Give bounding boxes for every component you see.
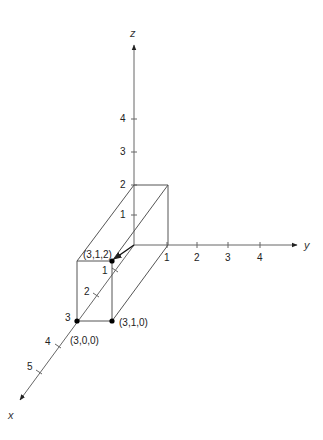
y-tick-1: 1 [164,253,170,263]
x-tick-1: 1 [102,266,108,276]
y-tick-3: 3 [225,253,231,263]
label-point-3-1-0: (3,1,0) [119,318,148,328]
z-tick-4: 4 [120,114,126,124]
z-tick-1: 1 [120,210,126,220]
y-tick-4: 4 [257,253,263,263]
x-axis-label: x [8,410,14,421]
z-axis-label: z [130,28,136,39]
x-tick-5: 5 [27,362,33,372]
z-tick-2: 2 [120,180,126,190]
3d-coordinate-diagram [0,0,323,440]
x-tick-4: 4 [45,337,51,347]
point-3-0-0 [74,318,79,323]
x-tick-2: 2 [84,287,90,297]
position-vector-arrow [114,245,134,259]
x-tick-3: 3 [65,313,71,323]
label-point-3-0-0: (3,0,0) [70,336,99,346]
z-tick-3: 3 [120,147,126,157]
y-tick-2: 2 [194,253,200,263]
point-3-1-0 [109,318,114,323]
y-axis-label: y [304,240,310,251]
label-point-3-1-2: (3,1,2) [83,250,112,260]
